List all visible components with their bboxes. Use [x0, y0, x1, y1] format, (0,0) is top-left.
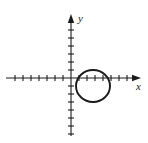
circle-shape [76, 70, 110, 102]
y-axis-group [68, 14, 74, 136]
x-axis-group [6, 75, 141, 81]
x-axis-label: x [135, 80, 141, 92]
coordinate-plane-figure: y x [0, 0, 148, 143]
y-axis-label: y [77, 12, 83, 24]
y-axis-arrowhead [68, 14, 74, 23]
graph-canvas: y x [0, 0, 148, 143]
